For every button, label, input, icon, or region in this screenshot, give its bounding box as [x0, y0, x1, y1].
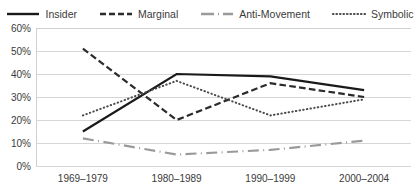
line-chart: Insider Marginal Anti-Movement Symbolic	[0, 0, 420, 196]
x-tick-label: 1990–1999	[245, 173, 295, 184]
x-tick-label: 2000–2004	[339, 173, 389, 184]
x-axis-labels: 1969–19791980–19891990–19992000–2004	[0, 0, 420, 196]
x-tick-label: 1969–1979	[58, 173, 108, 184]
x-tick-label: 1980–1989	[152, 173, 202, 184]
